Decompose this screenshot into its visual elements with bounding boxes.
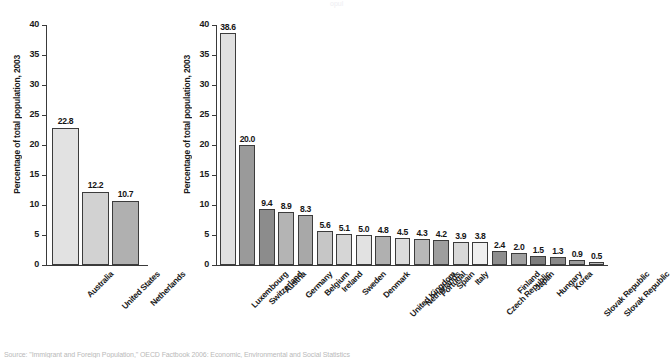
bar[interactable] [414, 239, 430, 265]
y-axis-tick-label: 10 [184, 199, 209, 209]
y-axis-tick-label: 30 [184, 79, 209, 89]
y-axis-tick [42, 55, 46, 56]
y-axis-tick-label: 40 [14, 19, 39, 29]
y-axis-tick-label: 15 [184, 169, 209, 179]
y-axis-tick-label: 10 [14, 199, 39, 209]
y-axis-tick [212, 265, 216, 266]
bar[interactable] [453, 242, 469, 265]
bar-value-label: 38.6 [214, 22, 242, 32]
bar[interactable] [52, 128, 79, 265]
y-axis-tick-label: 5 [184, 229, 209, 239]
y-axis-tick [42, 145, 46, 146]
y-axis-tick-label: 35 [184, 49, 209, 59]
y-axis-tick [212, 235, 216, 236]
x-axis-line [46, 265, 148, 266]
bar[interactable] [220, 33, 236, 265]
chart-panel-left: Percentage of total population, 20030510… [0, 0, 170, 358]
y-axis-tick-label: 35 [14, 49, 39, 59]
bar-value-label: 20.0 [233, 134, 261, 144]
y-axis-tick [42, 205, 46, 206]
bar[interactable] [278, 212, 294, 265]
x-axis-category-label: Italy [472, 269, 490, 287]
bar[interactable] [395, 238, 411, 265]
x-axis-category-label: Australia [84, 269, 115, 300]
bar[interactable] [82, 192, 109, 265]
chart-panel-right: Percentage of total population, 20030510… [170, 0, 615, 358]
bar[interactable] [336, 234, 352, 265]
bar[interactable] [530, 256, 546, 265]
y-axis-tick [42, 85, 46, 86]
x-axis-line [216, 265, 608, 266]
y-axis-tick [42, 265, 46, 266]
bar[interactable] [356, 235, 372, 265]
y-axis-tick [42, 175, 46, 176]
y-axis-tick-label: 30 [14, 79, 39, 89]
bar[interactable] [317, 231, 333, 265]
bar[interactable] [375, 236, 391, 265]
y-axis-tick-label: 40 [184, 19, 209, 29]
y-axis-tick-label: 25 [184, 109, 209, 119]
y-axis-tick-label: 20 [14, 139, 39, 149]
y-axis-tick-label: 0 [184, 259, 209, 269]
bar[interactable] [589, 262, 605, 265]
y-axis-tick [42, 25, 46, 26]
y-axis-tick [212, 115, 216, 116]
y-axis-tick [212, 145, 216, 146]
source-note: Source: "Immigrant and Foreign Populatio… [4, 351, 350, 358]
y-axis-tick-label: 5 [14, 229, 39, 239]
y-axis-tick [42, 235, 46, 236]
y-axis-line [46, 25, 47, 266]
y-axis-tick-label: 15 [14, 169, 39, 179]
bar-value-label: 0.5 [583, 251, 611, 261]
y-axis-tick-label: 20 [184, 139, 209, 149]
bar-value-label: 22.8 [46, 116, 85, 126]
y-axis-tick [212, 85, 216, 86]
y-axis-tick-label: 0 [14, 259, 39, 269]
bar-value-label: 8.3 [292, 204, 320, 214]
bar[interactable] [492, 251, 508, 265]
y-axis-tick-label: 25 [14, 109, 39, 119]
bar[interactable] [112, 201, 139, 265]
y-axis-line [216, 25, 217, 266]
y-axis-tick [212, 205, 216, 206]
bar-value-label: 10.7 [106, 189, 145, 199]
bar[interactable] [259, 209, 275, 265]
y-axis-tick [212, 55, 216, 56]
bar[interactable] [433, 240, 449, 265]
y-axis-tick [212, 175, 216, 176]
